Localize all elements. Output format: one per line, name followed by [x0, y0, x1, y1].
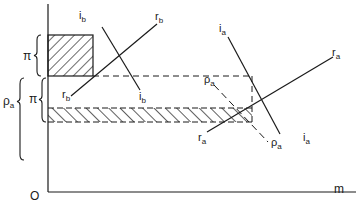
ra-label-top: ra [332, 46, 341, 61]
brace-pi-lower: π [29, 78, 46, 122]
rho-a-brace-label: ρa [3, 94, 15, 110]
brace-pi-upper: π [23, 35, 41, 76]
ib-label-bottom: ib [139, 90, 146, 105]
line-ia: ia ia [219, 22, 310, 146]
hatched-strip-lower [48, 108, 252, 122]
rho-a-label-bottom: ρa [271, 136, 282, 151]
rho-a-label-top: ρa [204, 73, 215, 88]
ib-label-top: ib [79, 9, 86, 24]
line-ra: ra ra [198, 46, 341, 146]
axes: O m [30, 4, 356, 203]
rb-label-top: rb [155, 10, 164, 25]
ia-label-bottom: ia [303, 131, 310, 146]
ra-label-bottom: ra [198, 131, 207, 146]
brace-rho-a: ρa [3, 78, 24, 160]
hatched-box-upper [48, 35, 93, 76]
x-axis-label: m [334, 182, 344, 196]
rb-label-bottom: rb [62, 88, 71, 103]
diagram-canvas: O m ib ib rb rb ia ia ra ra [0, 0, 356, 211]
pi-lower-label: π [29, 92, 37, 106]
ia-label-top: ia [219, 22, 226, 37]
origin-label: O [30, 189, 39, 203]
pi-upper-label: π [23, 49, 31, 63]
